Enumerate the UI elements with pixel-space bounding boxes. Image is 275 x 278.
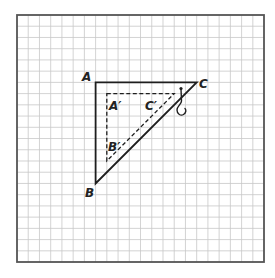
label-a: A [81, 70, 91, 84]
label-a-prime: A′ [108, 99, 122, 113]
label-b-prime: B′ [108, 140, 121, 154]
label-b: B [85, 186, 94, 200]
label-c: C [199, 77, 208, 91]
label-c-prime: C′ [145, 99, 158, 113]
grid-diagram: A B C A′ C′ B′ [0, 0, 275, 278]
